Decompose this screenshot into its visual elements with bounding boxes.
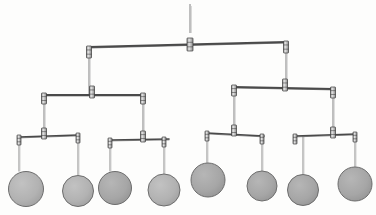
connector-clip	[108, 138, 112, 148]
figure-background	[0, 0, 376, 215]
connector-clip	[284, 41, 289, 53]
connector-clip	[283, 79, 288, 91]
connector-clip	[17, 135, 21, 145]
connector-clip	[162, 137, 166, 147]
connector-clip	[205, 131, 209, 141]
mobile-diagram-canvas	[0, 0, 376, 215]
hanging-disc	[9, 172, 44, 207]
hanging-disc	[288, 175, 319, 206]
connector-clip	[293, 134, 297, 144]
connector-clip	[232, 85, 237, 96]
connector-clip	[76, 133, 80, 143]
hanging-disc	[191, 163, 225, 197]
mobile-sculpture-figure	[0, 0, 376, 215]
connector-clip	[141, 131, 146, 142]
connector-clip	[42, 93, 47, 104]
connector-clip	[331, 87, 336, 98]
connector-clip	[87, 46, 92, 58]
connector-clip	[42, 128, 47, 139]
hanging-disc	[247, 171, 277, 201]
connector-clip	[260, 134, 264, 144]
connector-clip	[353, 132, 357, 142]
connector-clip	[331, 127, 336, 138]
hanging-disc	[338, 167, 372, 201]
hanging-disc	[63, 176, 94, 207]
hanging-disc	[148, 174, 180, 206]
hanging-disc	[99, 172, 132, 205]
connector-clip	[232, 125, 237, 136]
connector-clip	[90, 86, 95, 98]
connector-clip	[141, 93, 146, 104]
connector-clip	[187, 38, 193, 51]
balance-rod	[110, 139, 169, 140]
